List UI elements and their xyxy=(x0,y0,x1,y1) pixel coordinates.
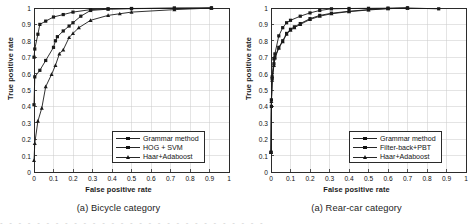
series-marker xyxy=(44,59,47,62)
x-tick-label: 0.7 xyxy=(166,175,175,182)
series-marker xyxy=(71,21,74,24)
x-tick-label: 0.5 xyxy=(127,175,136,182)
y-tick-label: 0.7 xyxy=(249,54,268,61)
series-marker xyxy=(44,85,48,89)
x-tick-label: 0.4 xyxy=(107,175,116,182)
series-marker xyxy=(330,7,333,10)
series-marker xyxy=(52,15,55,18)
y-tick-label: 0.8 xyxy=(12,37,31,44)
series-marker xyxy=(50,72,54,76)
series-marker xyxy=(56,35,59,38)
legend-item: Haar+Adaboost xyxy=(115,153,201,162)
legend-item: Filter-back+PBT xyxy=(352,143,438,152)
x-tick-label: 0 xyxy=(32,175,36,182)
series-marker xyxy=(33,141,37,145)
series-marker xyxy=(62,13,65,16)
x-tick-label: 0.9 xyxy=(442,175,451,182)
x-tick-label: 0.3 xyxy=(88,175,97,182)
series-marker xyxy=(107,8,110,11)
legend-item: Haar+Adaboost xyxy=(352,153,438,162)
series-marker xyxy=(281,26,284,29)
legend-marker-square-icon xyxy=(352,134,378,143)
series-marker xyxy=(285,21,288,24)
y-tick-label: 0.4 xyxy=(249,103,268,110)
y-tick-label: 0.9 xyxy=(12,21,31,28)
x-axis-label: False positive rate xyxy=(238,185,475,194)
series-marker xyxy=(61,48,65,52)
y-tick-label: 0.3 xyxy=(249,119,268,126)
x-tick-label: 0 xyxy=(269,175,273,182)
series-marker xyxy=(79,15,82,18)
y-tick-label: 1 xyxy=(12,5,31,12)
legend-label: HOG + SVM xyxy=(141,144,183,152)
x-tick-label: 0.8 xyxy=(422,175,431,182)
series-marker xyxy=(33,47,36,50)
legend-label: Grammar method xyxy=(378,135,436,143)
series-marker xyxy=(318,9,321,12)
legend-bicycle: Grammar method HOG + SVM Haar+Adaboost xyxy=(112,131,205,163)
x-tick-label: 0.2 xyxy=(68,175,77,182)
legend-marker-triangle-icon xyxy=(352,153,378,162)
legend-item: Grammar method xyxy=(352,134,438,143)
series-marker xyxy=(32,103,35,106)
series-marker xyxy=(62,29,65,32)
series-marker xyxy=(89,9,92,12)
x-tick-label: 0.1 xyxy=(286,175,295,182)
y-tick-label: 0.7 xyxy=(12,54,31,61)
series-marker xyxy=(277,34,280,37)
figure-panel-rear-car: True positive rate False positive rate (… xyxy=(238,0,475,224)
legend-rear-car: Grammar method Filter-back+PBT Haar+Adab… xyxy=(349,131,442,163)
y-tick-label: 0.8 xyxy=(249,37,268,44)
y-tick-label: 0.9 xyxy=(249,21,268,28)
series-marker xyxy=(54,39,57,42)
series-marker xyxy=(38,69,41,72)
panel-caption: (a) Rear-car category xyxy=(238,203,475,213)
series-marker xyxy=(33,75,36,78)
x-tick-label: 0.9 xyxy=(205,175,214,182)
x-tick-label: 0.5 xyxy=(364,175,373,182)
x-tick-label: 0.3 xyxy=(325,175,334,182)
y-tick-label: 0.3 xyxy=(12,119,31,126)
x-tick-label: 0.8 xyxy=(185,175,194,182)
series-marker xyxy=(38,23,41,26)
page-bleed-text: - - - - - - - - - - - - - - - - - - - - … xyxy=(0,218,475,224)
x-tick-label: 0.1 xyxy=(49,175,58,182)
series-marker xyxy=(32,56,35,59)
series-marker xyxy=(44,20,47,23)
legend-marker-square-icon xyxy=(115,143,141,152)
figure-panel-bicycle: True positive rate False positive rate (… xyxy=(0,0,237,224)
y-tick-label: 0.2 xyxy=(12,136,31,143)
y-tick-label: 0.2 xyxy=(249,136,268,143)
x-tick-label: 1 xyxy=(227,175,231,182)
series-marker xyxy=(289,19,292,22)
y-tick-label: 0 xyxy=(12,169,31,176)
series-marker xyxy=(71,11,74,14)
x-tick-label: 1 xyxy=(464,175,468,182)
series-line xyxy=(34,8,211,57)
series-marker xyxy=(68,24,71,27)
series-marker xyxy=(36,119,40,123)
x-tick-label: 0.6 xyxy=(383,175,392,182)
legend-marker-triangle-icon xyxy=(115,153,141,162)
y-tick-label: 0 xyxy=(249,169,268,176)
series-marker xyxy=(32,158,36,162)
y-tick-label: 0.6 xyxy=(12,70,31,77)
x-axis-label: False positive rate xyxy=(0,185,237,194)
legend-marker-square-icon xyxy=(115,134,141,143)
legend-marker-square-icon xyxy=(352,143,378,152)
legend-label: Filter-back+PBT xyxy=(378,144,431,152)
legend-label: Haar+Adaboost xyxy=(378,153,430,161)
x-tick-label: 0.2 xyxy=(305,175,314,182)
series-marker xyxy=(130,7,133,10)
y-tick-label: 0.1 xyxy=(12,152,31,159)
series-marker xyxy=(77,26,81,30)
legend-label: Haar+Adaboost xyxy=(141,153,193,161)
y-tick-label: 0.6 xyxy=(249,70,268,77)
y-tick-label: 0.5 xyxy=(249,87,268,94)
legend-item: Grammar method xyxy=(115,134,201,143)
series-marker xyxy=(36,33,39,36)
y-tick-label: 0.4 xyxy=(12,103,31,110)
y-tick-label: 1 xyxy=(249,5,268,12)
x-tick-label: 0.6 xyxy=(146,175,155,182)
y-tick-label: 0.1 xyxy=(249,152,268,159)
